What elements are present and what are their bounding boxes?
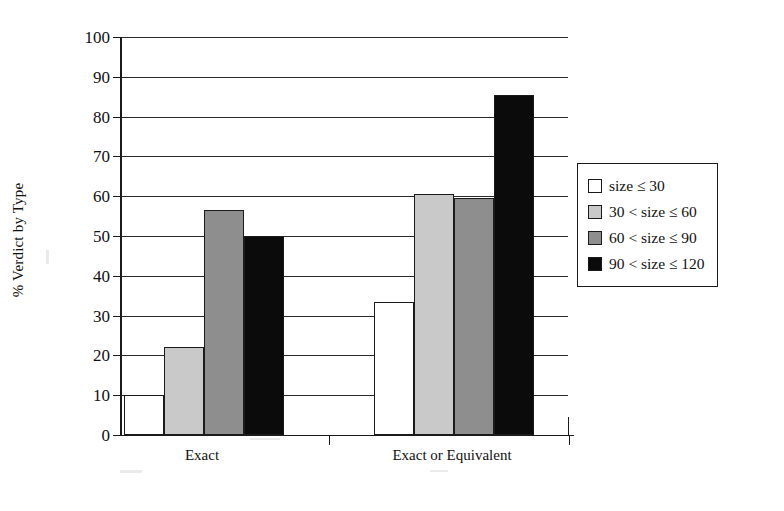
y-axis-tick-label: 80: [50, 108, 110, 125]
y-axis-tick-label: 20: [50, 347, 110, 364]
scan-speckle: [120, 470, 142, 473]
y-axis-tick-label: 100: [50, 29, 110, 46]
y-axis-tick-mark: [113, 316, 120, 317]
bar: [204, 210, 244, 435]
x-axis-category-label: Exact or Equivalent: [342, 447, 562, 464]
gridline: [122, 37, 568, 38]
legend-swatch-icon: [588, 231, 602, 245]
gridline: [122, 77, 568, 78]
x-axis-category-label: Exact: [92, 447, 312, 464]
y-axis-tick-mark: [113, 395, 120, 396]
y-axis-tick-label: 60: [50, 188, 110, 205]
bar: [164, 347, 204, 435]
legend-item-label: 60 < size ≤ 90: [609, 230, 697, 246]
bar-chart-figure: % Verdict by Type 1009080706050403020100…: [0, 0, 784, 511]
y-axis-tick-mark: [113, 156, 120, 157]
x-axis-right-cap: [568, 417, 569, 436]
legend-item: 30 < size ≤ 60: [588, 199, 705, 225]
y-axis-tick-label: 30: [50, 307, 110, 324]
bar: [244, 236, 284, 435]
x-axis-line: [116, 435, 574, 436]
scan-speckle: [250, 438, 280, 440]
scan-speckle: [430, 470, 448, 472]
y-axis-tick-mark: [113, 37, 120, 38]
legend-item-label: 90 < size ≤ 120: [609, 256, 705, 272]
y-axis-tick-label: 90: [50, 68, 110, 85]
legend-swatch-icon: [588, 205, 602, 219]
y-axis-tick-mark: [113, 355, 120, 356]
x-axis-group-tick: [329, 435, 330, 445]
legend-item: 90 < size ≤ 120: [588, 251, 705, 277]
legend-item-label: 30 < size ≤ 60: [609, 204, 697, 220]
y-axis-tick-mark: [113, 276, 120, 277]
y-axis-tick-mark: [113, 236, 120, 237]
plot-area: [120, 37, 568, 435]
bar: [454, 198, 494, 435]
y-axis-tick-mark: [113, 196, 120, 197]
legend: size ≤ 3030 < size ≤ 6060 < size ≤ 9090 …: [577, 163, 718, 287]
x-axis-group-tick: [569, 435, 570, 445]
y-axis-tick-labels: 1009080706050403020100: [0, 0, 118, 511]
y-axis-tick-label: 40: [50, 267, 110, 284]
y-axis-tick-mark: [113, 77, 120, 78]
bar: [124, 395, 164, 435]
y-axis-tick-label: 0: [50, 427, 110, 444]
legend-swatch-icon: [588, 257, 602, 271]
legend-swatch-icon: [588, 179, 602, 193]
bar: [414, 194, 454, 435]
legend-item: size ≤ 30: [588, 173, 705, 199]
legend-item-label: size ≤ 30: [609, 178, 665, 194]
legend-item: 60 < size ≤ 90: [588, 225, 705, 251]
y-axis-tick-label: 10: [50, 387, 110, 404]
y-axis-tick-label: 50: [50, 228, 110, 245]
y-axis-tick-label: 70: [50, 148, 110, 165]
bar: [374, 302, 414, 435]
y-axis-tick-mark: [113, 117, 120, 118]
bar: [494, 95, 534, 435]
